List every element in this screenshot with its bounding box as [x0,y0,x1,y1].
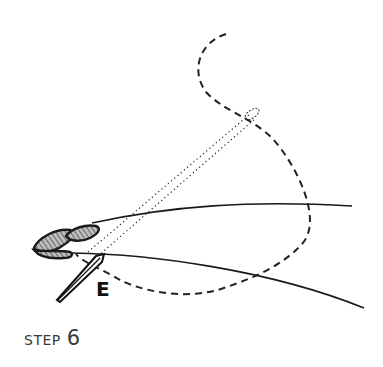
step-number: 6 [67,326,80,350]
solid-thread-upper [92,204,352,223]
stitch-illustration [0,0,383,367]
solid-thread-lower [72,253,364,308]
point-label-e: E [96,277,110,301]
dotted-thread-pair [88,114,256,256]
step-word: STEP [24,332,61,348]
step-caption: STEP 6 [24,326,80,350]
